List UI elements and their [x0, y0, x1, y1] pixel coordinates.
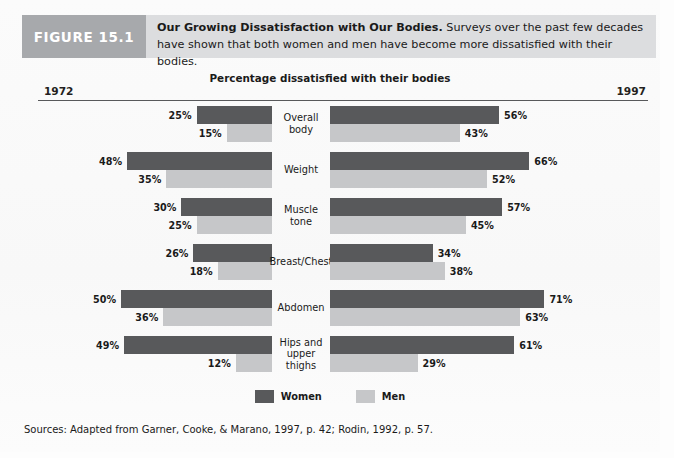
bar-men-right — [330, 308, 520, 326]
chart-row: 25% 15% Overall body 56% 43% — [0, 106, 660, 152]
bar-value-women-left: 26% — [166, 248, 189, 259]
row-left-1972: 26% 18% — [34, 244, 272, 280]
bar-value-men-left: 12% — [208, 358, 231, 369]
category-label: Abdomen — [272, 290, 330, 326]
chart-row: 50% 36% Abdomen 71% 63% — [0, 290, 660, 336]
legend-swatch-women — [255, 390, 274, 403]
category-label: Overall body — [272, 106, 330, 142]
figure-header: FIGURE 15.1 Our Growing Dissatisfaction … — [22, 15, 656, 58]
bar-women-left — [121, 290, 272, 308]
bar-group-men-left: 35% — [34, 170, 272, 188]
chart-row: 26% 18% Breast/Chest 34% 38% — [0, 244, 660, 290]
bar-value-women-left: 30% — [153, 202, 176, 213]
chart-row: 49% 12% Hips and upper thighs 61% — [0, 336, 660, 382]
row-left-1972: 30% 25% — [34, 198, 272, 234]
chart-plot-area: 25% 15% Overall body 56% 43% — [0, 106, 660, 382]
bar-group-men-right: 29% — [330, 354, 648, 372]
bar-value-men-left: 35% — [138, 174, 161, 185]
chart-row: 30% 25% Muscle tone 57% 45% — [0, 198, 660, 244]
figure-number-badge: FIGURE 15.1 — [22, 15, 146, 58]
bar-value-men-right: 63% — [525, 312, 548, 323]
bar-men-left — [227, 124, 272, 142]
bar-value-women-left: 25% — [169, 110, 192, 121]
bar-value-men-left: 25% — [169, 220, 192, 231]
bar-value-women-right: 71% — [549, 294, 572, 305]
category-label: Muscle tone — [272, 198, 330, 234]
bar-group-men-right: 63% — [330, 308, 648, 326]
bar-women-left — [193, 244, 272, 262]
legend-item-men: Men — [356, 390, 405, 403]
figure-caption-title: Our Growing Dissatisfaction with Our Bod… — [157, 21, 443, 34]
bar-group-men-left: 12% — [34, 354, 272, 372]
bar-group-men-right: 45% — [330, 216, 648, 234]
category-label-line1: Weight — [284, 164, 318, 175]
legend-label-men: Men — [382, 391, 405, 402]
axis-label-left-year: 1972 — [44, 85, 74, 97]
bar-women-right — [330, 336, 514, 354]
row-left-1972: 25% 15% — [34, 106, 272, 142]
bar-group-women-right: 34% — [330, 244, 648, 262]
bar-women-left — [124, 336, 272, 354]
bar-value-men-right: 45% — [471, 220, 494, 231]
category-label-line1: Abdomen — [278, 302, 325, 313]
bar-women-left — [181, 198, 272, 216]
bar-group-women-left: 50% — [34, 290, 272, 308]
category-label: Breast/Chest — [272, 244, 330, 280]
bar-women-right — [330, 290, 544, 308]
bar-group-women-right: 57% — [330, 198, 648, 216]
bar-value-women-right: 34% — [438, 248, 461, 259]
category-label-line1: Muscle tone — [284, 204, 318, 227]
bar-women-right — [330, 198, 502, 216]
bar-men-right — [330, 354, 418, 372]
bar-group-men-left: 36% — [34, 308, 272, 326]
bar-group-men-right: 52% — [330, 170, 648, 188]
bar-group-women-right: 61% — [330, 336, 648, 354]
bar-value-men-right: 52% — [492, 174, 515, 185]
bar-value-women-left: 50% — [93, 294, 116, 305]
bar-women-left — [127, 152, 272, 170]
row-right-1997: 61% 29% — [330, 336, 648, 372]
bar-group-women-left: 30% — [34, 198, 272, 216]
row-right-1997: 34% 38% — [330, 244, 648, 280]
row-right-1997: 57% 45% — [330, 198, 648, 234]
chart-row: 48% 35% Weight 66% 52% — [0, 152, 660, 198]
bar-group-men-right: 38% — [330, 262, 648, 280]
category-label-line1: Hips and — [280, 337, 323, 348]
bar-value-women-left: 48% — [99, 156, 122, 167]
legend-swatch-men — [356, 390, 375, 403]
bar-women-right — [330, 152, 529, 170]
bar-value-men-left: 18% — [190, 266, 213, 277]
bar-women-left — [197, 106, 273, 124]
legend-label-women: Women — [281, 391, 322, 402]
row-right-1997: 71% 63% — [330, 290, 648, 326]
category-label: Weight — [272, 152, 330, 188]
bar-value-women-left: 49% — [96, 340, 119, 351]
bar-group-women-right: 56% — [330, 106, 648, 124]
bar-value-men-right: 43% — [465, 128, 488, 139]
bar-group-men-left: 25% — [34, 216, 272, 234]
bar-value-men-right: 29% — [423, 358, 446, 369]
row-left-1972: 50% 36% — [34, 290, 272, 326]
bar-women-right — [330, 244, 433, 262]
bar-women-right — [330, 106, 499, 124]
figure-sources: Sources: Adapted from Garner, Cooke, & M… — [24, 424, 433, 435]
bar-group-men-left: 15% — [34, 124, 272, 142]
bar-value-men-left: 15% — [199, 128, 222, 139]
bar-group-women-left: 26% — [34, 244, 272, 262]
bar-men-left — [163, 308, 272, 326]
bar-men-right — [330, 216, 466, 234]
row-left-1972: 49% 12% — [34, 336, 272, 372]
axis-label-right-year: 1997 — [602, 85, 646, 97]
bar-value-women-right: 61% — [519, 340, 542, 351]
bar-group-women-left: 48% — [34, 152, 272, 170]
figure-caption: Our Growing Dissatisfaction with Our Bod… — [146, 15, 656, 58]
row-right-1997: 56% 43% — [330, 106, 648, 142]
chart-legend: Women Men — [0, 390, 660, 403]
chart-title: Percentage dissatisfied with their bodie… — [0, 72, 660, 84]
bar-group-women-right: 66% — [330, 152, 648, 170]
bar-men-left — [197, 216, 273, 234]
bar-value-men-left: 36% — [135, 312, 158, 323]
bar-group-women-left: 49% — [34, 336, 272, 354]
row-right-1997: 66% 52% — [330, 152, 648, 188]
bar-value-women-right: 57% — [507, 202, 530, 213]
